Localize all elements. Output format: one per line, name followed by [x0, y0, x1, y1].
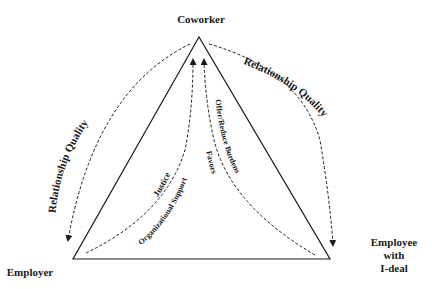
inner-left-arrow — [86, 60, 193, 253]
inner-right-label-offer: Offer/Reduce Burdens — [213, 99, 242, 175]
node-employer: Employer — [0, 266, 60, 279]
outer-right-label: Relationship Quality — [242, 54, 331, 119]
node-employee-line-3: I-deal — [362, 262, 426, 275]
ideal-triangle-diagram: Relationship Quality Relationship Qualit… — [0, 0, 432, 289]
node-coworker: Coworker — [171, 13, 231, 26]
node-employee-line-1: Employee — [362, 236, 426, 249]
node-employee-line-2: with — [362, 249, 426, 262]
inner-left-label-justice: Justice — [151, 171, 172, 199]
outer-left-label: Relationship Quality — [46, 117, 91, 214]
inner-right-label-favors: Favors — [204, 150, 218, 175]
triangle — [73, 37, 330, 259]
node-employee-with-ideal: Employee with I-deal — [362, 236, 426, 275]
